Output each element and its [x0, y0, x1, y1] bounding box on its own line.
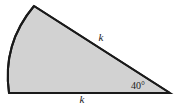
geometry-figure-svg: k k 40° [0, 0, 175, 107]
label-angle-40-degrees: 40° [131, 80, 145, 91]
geometry-figure-container: k k 40° [0, 0, 175, 107]
